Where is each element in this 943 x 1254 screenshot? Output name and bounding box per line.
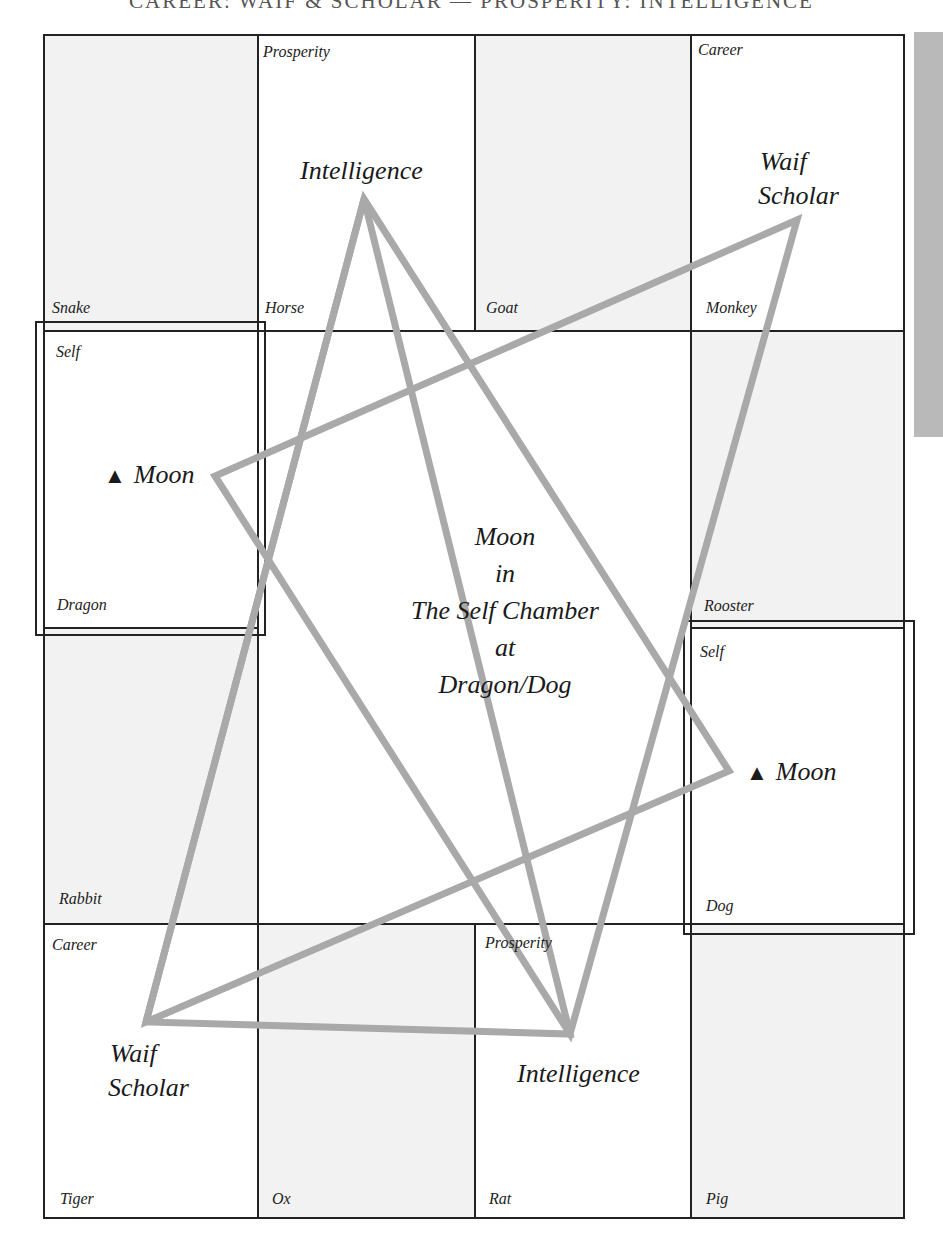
chamber-label-prosperity: Prosperity xyxy=(485,934,552,952)
star-label-moon: ▲Moon xyxy=(746,756,836,789)
center-line: Moon xyxy=(340,518,670,555)
triangle-marker-icon: ▲ xyxy=(104,463,126,488)
grid-line xyxy=(474,34,476,330)
animal-label-rooster: Rooster xyxy=(704,597,754,615)
center-line: Dragon/Dog xyxy=(340,666,670,703)
center-line: The Self Chamber xyxy=(340,592,670,629)
animal-label-pig: Pig xyxy=(706,1190,728,1208)
chamber-label-self: Self xyxy=(700,643,724,661)
center-line: in xyxy=(340,555,670,592)
star-label-waif: Waif xyxy=(110,1038,157,1071)
animal-label-tiger: Tiger xyxy=(60,1190,94,1208)
animal-label-horse: Horse xyxy=(265,299,304,317)
chamber-label-self: Self xyxy=(56,343,80,361)
star-label-waif: Waif xyxy=(760,146,807,179)
moon-text: Moon xyxy=(776,757,837,786)
animal-label-rat: Rat xyxy=(489,1190,511,1208)
star-label-scholar: Scholar xyxy=(108,1072,189,1105)
center-line: at xyxy=(340,629,670,666)
animal-label-dog: Dog xyxy=(706,897,734,915)
star-label-intelligence: Intelligence xyxy=(300,155,423,188)
grid-line xyxy=(257,34,259,330)
chamber-label-prosperity: Prosperity xyxy=(263,43,330,61)
animal-label-dragon: Dragon xyxy=(57,596,107,614)
page-side-tab xyxy=(914,32,943,437)
animal-label-snake: Snake xyxy=(52,299,90,317)
triangle-marker-icon: ▲ xyxy=(746,760,768,785)
animal-label-rabbit: Rabbit xyxy=(59,890,102,908)
star-label-intelligence: Intelligence xyxy=(517,1058,640,1091)
star-label-moon: ▲Moon xyxy=(104,459,194,492)
grid-line xyxy=(474,923,476,1219)
star-label-scholar: Scholar xyxy=(758,180,839,213)
animal-label-goat: Goat xyxy=(486,299,518,317)
animal-label-ox: Ox xyxy=(272,1190,291,1208)
chamber-label-career: Career xyxy=(52,936,97,954)
diagram-header: CAREER: WAIF & SCHOLAR — PROSPERITY: INT… xyxy=(0,0,943,14)
animal-label-monkey: Monkey xyxy=(706,299,757,317)
chamber-label-career: Career xyxy=(698,41,743,59)
center-description: Moon in The Self Chamber at Dragon/Dog xyxy=(340,518,670,703)
moon-text: Moon xyxy=(134,460,195,489)
